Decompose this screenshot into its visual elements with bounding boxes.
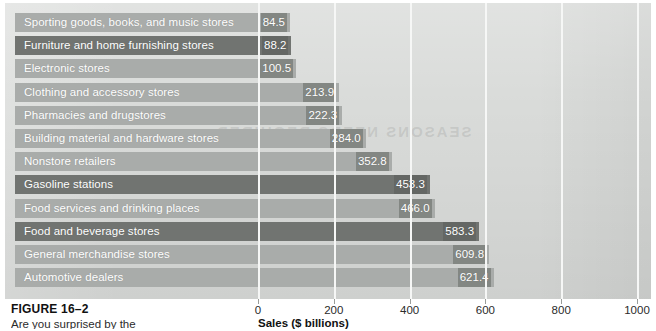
bar[interactable]: Food services and drinking places466.0	[15, 199, 435, 218]
bar-category-label: Electronic stores	[24, 59, 110, 78]
bar[interactable]: Automotive dealers621.4	[15, 268, 494, 287]
bar[interactable]: Building material and hardware stores284…	[15, 129, 366, 148]
bar-row[interactable]: Pharmacies and drugstores222.3	[15, 106, 342, 125]
bar[interactable]: Furniture and home furnishing stores88.2	[15, 36, 291, 55]
bar-value-label: 466.0	[399, 199, 432, 218]
bar-value-label: 352.8	[356, 152, 389, 171]
figure-caption: FIGURE 16–2 Are you surprised by the	[11, 303, 221, 329]
bar-category-label: Building material and hardware stores	[24, 129, 219, 148]
gridline-800	[561, 3, 563, 299]
gridline-200	[334, 3, 336, 299]
tick-label-600: 600	[476, 304, 495, 316]
bar[interactable]: Clothing and accessory stores213.9	[15, 83, 339, 102]
bar-category-label: Clothing and accessory stores	[24, 83, 180, 102]
gridline-0	[258, 3, 260, 299]
x-axis-title: Sales ($ billions)	[258, 317, 349, 329]
bar-row[interactable]: Sporting goods, books, and music stores8…	[15, 13, 290, 32]
bar-value-label: 583.3	[443, 222, 476, 241]
bar-category-label: Pharmacies and drugstores	[24, 106, 166, 125]
bar[interactable]: Electronic stores100.5	[15, 59, 296, 78]
bar-category-label: Food services and drinking places	[24, 199, 200, 218]
bar-value-label: 213.9	[303, 83, 336, 102]
tick-label-200: 200	[324, 304, 343, 316]
bar-row[interactable]: Clothing and accessory stores213.9	[15, 83, 339, 102]
bar[interactable]: General merchandise stores609.8	[15, 245, 489, 264]
bar-row[interactable]: Building material and hardware stores284…	[15, 129, 366, 148]
bar-category-label: General merchandise stores	[24, 245, 170, 264]
gridline-1000	[637, 3, 639, 299]
figure-caption-text: Are you surprised by the	[11, 318, 221, 329]
bar-category-label: Food and beverage stores	[24, 222, 159, 241]
bar-value-label: 100.5	[260, 59, 293, 78]
chart-plot-area: SEASONS NEEDS REQUIRED Sporting goods, b…	[5, 3, 651, 299]
tick-label-800: 800	[552, 304, 571, 316]
bar-category-label: Gasoline stations	[24, 175, 113, 194]
bar-category-label: Nonstore retailers	[24, 152, 116, 171]
bar-value-label: 88.2	[262, 36, 288, 55]
bar-row[interactable]: Furniture and home furnishing stores88.2	[15, 36, 291, 55]
gridline-600	[485, 3, 487, 299]
bar-row[interactable]: Electronic stores100.5	[15, 59, 296, 78]
bar-value-label: 609.8	[453, 245, 486, 264]
bar[interactable]: Pharmacies and drugstores222.3	[15, 106, 342, 125]
bar[interactable]: Sporting goods, books, and music stores8…	[15, 13, 290, 32]
figure-16-2: SEASONS NEEDS REQUIRED Sporting goods, b…	[0, 0, 656, 331]
bar-row[interactable]: Food services and drinking places466.0	[15, 199, 435, 218]
bar-value-label: 84.5	[261, 13, 287, 32]
gridline-400	[410, 3, 412, 299]
tick-label-1000: 1000	[624, 304, 650, 316]
bar-row[interactable]: Gasoline stations453.3	[15, 175, 430, 194]
bar-category-label: Sporting goods, books, and music stores	[24, 13, 234, 32]
bar-row[interactable]: Automotive dealers621.4	[15, 268, 494, 287]
figure-caption-title: FIGURE 16–2	[11, 303, 221, 316]
bar-row[interactable]: General merchandise stores609.8	[15, 245, 489, 264]
tick-label-0: 0	[255, 304, 261, 316]
bar[interactable]: Gasoline stations453.3	[15, 175, 430, 194]
bar-series: Sporting goods, books, and music stores8…	[5, 3, 651, 299]
bar-category-label: Furniture and home furnishing stores	[24, 36, 214, 55]
bar-category-label: Automotive dealers	[24, 268, 123, 287]
tick-label-400: 400	[400, 304, 419, 316]
